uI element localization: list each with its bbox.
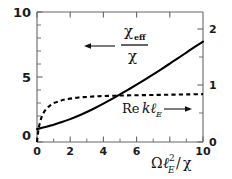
left-tick-label-5: 5 [22, 70, 31, 85]
x-axis-title-chi: χ [183, 155, 192, 171]
series-chi-eff-over-chi [37, 42, 203, 129]
series-re-k-ell-e [37, 94, 203, 142]
x-tick-label-0: 0 [33, 145, 41, 158]
x-axis-title-omega: Ω [151, 155, 163, 171]
x-axis-title: Ω ℓ E 2 / χ [151, 153, 192, 175]
left-tick-label-10: 10 [13, 5, 31, 20]
chi-eff-denominator-chi: χ [128, 47, 137, 65]
chi-eff-left-arrow-icon [84, 43, 115, 49]
x-tick-label-10: 10 [195, 145, 211, 158]
x-axis-title-slash: / [176, 155, 181, 171]
chi-eff-numerator-sub: eff [134, 32, 146, 42]
chart-canvas: 10 5 0 2 1 0 0 2 4 6 10 Ω ℓ E 2 / χ χ ef… [0, 0, 232, 179]
x-tick-label-6: 6 [133, 145, 141, 158]
x-axis-ticks-bottom [37, 137, 203, 143]
annotation-re-k-ell-e: Re kℓ E [122, 100, 192, 119]
right-tick-label-1: 1 [209, 79, 217, 92]
x-axis-ticks-top [37, 12, 170, 18]
left-axis-ticks [37, 12, 43, 142]
x-tick-label-4: 4 [100, 145, 108, 158]
re-k-ell-e-right-arrow-icon [164, 106, 192, 112]
re-k-ell-e-re: Re [122, 101, 140, 116]
x-tick-label-2: 2 [66, 145, 74, 158]
right-axis-ticks [198, 29, 204, 142]
right-tick-label-2: 2 [209, 23, 217, 36]
x-axis-title-sub-e: E [167, 165, 175, 175]
re-k-ell-e-kell: kℓ [142, 100, 156, 116]
re-k-ell-e-sub: E [155, 110, 162, 119]
annotation-chi-eff-over-chi: χ eff χ [84, 22, 148, 65]
chi-eff-numerator-chi: χ [124, 22, 133, 40]
x-axis-title-sup-2: 2 [169, 153, 175, 163]
figure-chart: 10 5 0 2 1 0 0 2 4 6 10 Ω ℓ E 2 / χ χ ef… [0, 0, 232, 179]
left-tick-label-0: 0 [22, 128, 31, 143]
